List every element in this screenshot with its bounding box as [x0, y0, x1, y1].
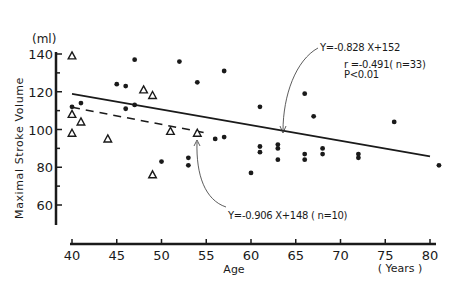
data-point-dot	[70, 104, 75, 109]
data-point-dot	[302, 157, 307, 162]
data-point-dot	[275, 146, 280, 151]
data-point-triangle	[68, 129, 76, 136]
y-tick-label: 60	[36, 198, 53, 213]
scatter-chart: 6080100120140 404550556065707580 (ml) Ma…	[0, 0, 456, 283]
data-point-dot	[132, 57, 137, 62]
x-axis-title: Age	[223, 263, 245, 276]
data-point-dot	[275, 157, 280, 162]
y-tick-label: 80	[36, 160, 53, 175]
data-point-dot	[195, 80, 200, 85]
x-tick-label: 80	[422, 248, 439, 263]
x-tick-label: 75	[377, 248, 394, 263]
arrow-solid-eq	[283, 48, 318, 131]
solid-line-p-stat: P<0.01	[344, 69, 379, 80]
data-points	[68, 52, 441, 178]
x-tick-label: 50	[153, 248, 170, 263]
data-point-triangle	[149, 92, 157, 99]
data-point-triangle	[149, 171, 157, 178]
regression-line-dashed	[72, 107, 206, 133]
data-point-dot	[186, 163, 191, 168]
data-point-triangle	[194, 129, 202, 136]
data-point-dot	[302, 91, 307, 96]
regression-lines	[72, 94, 430, 157]
data-point-dot	[249, 171, 254, 176]
data-point-dot	[159, 159, 164, 164]
data-point-dot	[258, 144, 263, 149]
data-point-dot	[356, 155, 361, 160]
x-tick-label: 65	[287, 248, 304, 263]
data-point-dot	[186, 155, 191, 160]
data-point-dot	[258, 150, 263, 155]
data-point-dot	[132, 103, 137, 108]
data-point-triangle	[77, 118, 85, 125]
data-point-dot	[320, 152, 325, 157]
y-tick-label: 140	[28, 47, 53, 62]
data-point-triangle	[167, 127, 175, 134]
data-point-dot	[114, 82, 119, 87]
x-unit-label: ( Years )	[378, 262, 423, 275]
data-point-dot	[392, 120, 397, 125]
data-point-triangle	[68, 52, 76, 59]
x-tick-label: 55	[198, 248, 215, 263]
x-axis: 404550556065707580	[64, 239, 439, 263]
data-point-dot	[123, 106, 128, 111]
y-tick-label: 120	[28, 85, 53, 100]
data-point-dot	[302, 152, 307, 157]
data-point-dot	[222, 69, 227, 74]
x-tick-label: 40	[64, 248, 81, 263]
y-axis-title: Maximal Stroke Volume	[13, 77, 26, 219]
solid-line-equation: Y=-0.828 X+152	[319, 42, 400, 53]
y-axis: 6080100120140	[28, 47, 62, 225]
data-point-dot	[222, 135, 227, 140]
x-tick-label: 70	[332, 248, 349, 263]
data-point-dot	[213, 137, 218, 142]
x-tick-label: 60	[243, 248, 260, 263]
data-point-triangle	[140, 86, 148, 93]
dashed-line-equation: Y=-0.906 X+148 ( n=10)	[227, 210, 348, 221]
x-tick-label: 45	[108, 248, 125, 263]
y-unit-label: (ml)	[32, 32, 56, 46]
regression-line-solid	[72, 94, 430, 157]
y-tick-label: 100	[28, 123, 53, 138]
data-point-triangle	[104, 135, 112, 142]
arrow-dashed-eq	[197, 142, 226, 207]
data-point-dot	[177, 59, 182, 64]
data-point-dot	[123, 84, 128, 89]
data-point-dot	[79, 101, 84, 106]
data-point-dot	[258, 104, 263, 109]
data-point-triangle	[68, 110, 76, 117]
data-point-dot	[311, 114, 316, 119]
data-point-dot	[437, 163, 442, 168]
data-point-dot	[320, 146, 325, 151]
